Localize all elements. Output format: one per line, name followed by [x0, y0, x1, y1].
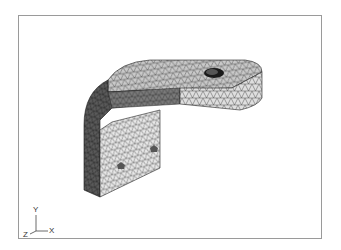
axis-triad: Y X Z	[20, 205, 60, 239]
lower-plate-face	[100, 110, 160, 197]
z-axis-label: Z	[23, 231, 28, 239]
x-axis-label: X	[49, 227, 54, 235]
y-axis-label: Y	[33, 206, 38, 214]
